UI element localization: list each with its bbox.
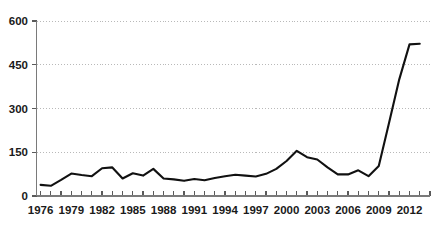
x-tick-label-1979: 1979	[59, 204, 85, 216]
chart-plot-area: 0150300450600 19761979198219851988199119…	[0, 0, 440, 230]
x-tick-label-1991: 1991	[182, 204, 208, 216]
y-tick-label-300: 300	[9, 103, 28, 115]
x-tick-label-1994: 1994	[212, 204, 238, 216]
y-tick-label-0: 0	[22, 190, 28, 202]
x-tick-label-1982: 1982	[89, 204, 115, 216]
x-tick-label-2009: 2009	[366, 204, 392, 216]
x-tick-label-1988: 1988	[151, 204, 177, 216]
line-chart: 0150300450600 19761979198219851988199119…	[0, 0, 440, 230]
y-tick-label-150: 150	[9, 146, 28, 158]
x-tick-label-1997: 1997	[243, 204, 269, 216]
x-tick-label-2012: 2012	[397, 204, 423, 216]
x-axis-tick-labels: 1976197919821985198819911994199720002003…	[28, 204, 423, 216]
gridlines	[37, 21, 431, 152]
x-tick-label-2006: 2006	[335, 204, 361, 216]
y-tick-label-450: 450	[9, 59, 28, 71]
x-tick-label-1976: 1976	[28, 204, 54, 216]
x-tick-label-2000: 2000	[274, 204, 300, 216]
y-axis-tick-labels: 0150300450600	[9, 15, 28, 202]
x-tick-label-1985: 1985	[120, 204, 146, 216]
y-tick-label-600: 600	[9, 15, 28, 27]
x-tick-label-2003: 2003	[304, 204, 330, 216]
